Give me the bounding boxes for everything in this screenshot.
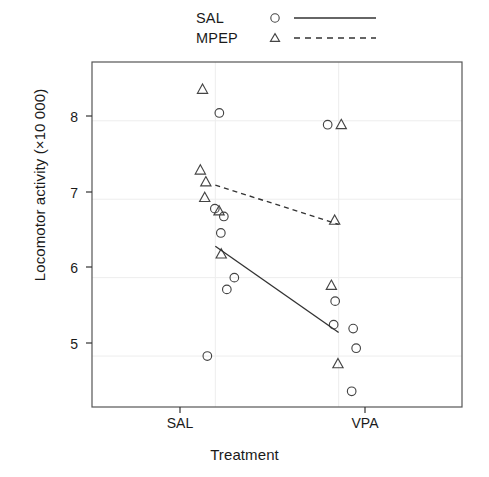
panel-background	[92, 62, 462, 407]
x-axis-title: Treatment	[0, 446, 489, 463]
y-tick-label-8: 8	[52, 109, 78, 125]
scatter-plot-figure: SAL MPEP	[0, 0, 489, 477]
x-tick-label-sal: SAL	[140, 415, 220, 431]
y-axis-title: Locomotor activity (×10 000)	[31, 0, 48, 375]
y-tick-label-5: 5	[52, 336, 78, 352]
y-tick-label-7: 7	[52, 185, 78, 201]
plot-panel	[0, 0, 489, 477]
y-tick-label-6: 6	[52, 260, 78, 276]
x-tick-label-vpa: VPA	[325, 415, 405, 431]
y-axis-title-wrapper: Locomotor activity (×10 000)	[31, 0, 53, 375]
